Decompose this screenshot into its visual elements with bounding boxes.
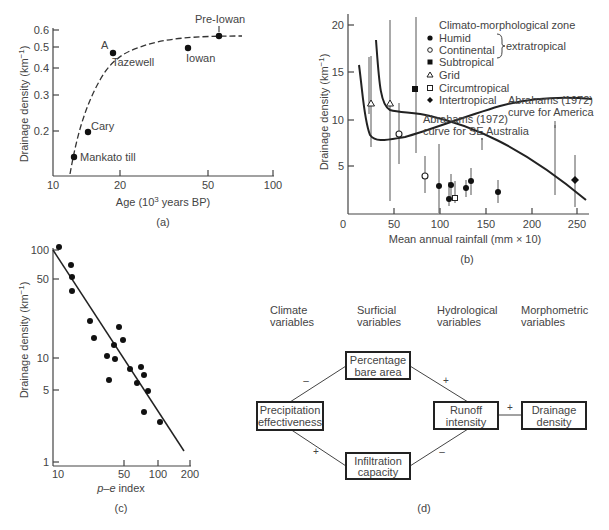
legend-item: Continental (439, 44, 495, 56)
grid-points (368, 100, 394, 106)
y-tick-label: 0.5 (34, 41, 49, 53)
y-axis-label: Drainage density (km−1) (17, 282, 30, 399)
y-axis-label: Drainage density (km−1) (317, 54, 330, 171)
legend-group-label: extratropical (506, 40, 566, 52)
legend-item: Intertropical (439, 94, 496, 106)
edge-sign: + (313, 446, 319, 457)
caption-d: (d) (417, 502, 430, 514)
x-tick-label: 100 (264, 179, 282, 191)
edge-sign: + (443, 375, 449, 386)
svg-text:effectiveness: effectiveness (258, 416, 323, 428)
regression-line (53, 250, 184, 451)
edge-bare-runoff (410, 366, 468, 402)
x-tick-label: 10 (52, 468, 64, 480)
column-header: variables (357, 316, 402, 328)
legend-title: Climato-morphological zone (439, 19, 575, 31)
x-tick-label: 200 (181, 468, 199, 480)
x-axis-label: p–e index (96, 482, 145, 494)
node-infiltration-capacity: Infiltration capacity (346, 453, 410, 479)
brace (497, 34, 505, 58)
column-header: variables (270, 316, 315, 328)
svg-text:bare area: bare area (354, 366, 402, 378)
curve-label-america: Abrahams (1972) (508, 94, 593, 106)
svg-text:intensity: intensity (446, 416, 487, 428)
column-header: Climate (270, 304, 307, 316)
y-tick-label: 0.3 (34, 89, 49, 101)
svg-text:Drainage: Drainage (532, 404, 577, 416)
y-tick-label: 50 (37, 273, 49, 285)
column-header: Surficial (357, 304, 396, 316)
curve-label-se-australia: curve for SE Australia (423, 125, 530, 137)
edge-sign: – (303, 375, 309, 386)
point-label: Tazewell (112, 56, 154, 68)
caption-b: (b) (460, 253, 473, 265)
node-drainage-density: Drainage density (522, 402, 586, 429)
svg-text:density: density (537, 416, 572, 428)
node-precipitation-effectiveness: Precipitation effectiveness (257, 402, 323, 430)
svg-text:capacity: capacity (358, 466, 399, 478)
x-tick-label: 100 (431, 218, 449, 230)
point-label: Iowan (186, 52, 215, 64)
x-tick-label: 150 (477, 218, 495, 230)
x-axis-label: Mean annual rainfall (mm × 10) (389, 233, 542, 245)
y-tick-label: 10 (37, 352, 49, 364)
x-axis-label: Age (103 years BP) (116, 195, 210, 208)
y-tick-label: 15 (332, 66, 344, 78)
column-header: Morphometric (521, 304, 589, 316)
y-tick-label: 5 (338, 160, 344, 172)
x-tick-label: 50 (202, 179, 214, 191)
data-point (216, 33, 222, 39)
x-tick-label: 0 (340, 218, 346, 230)
data-point (185, 45, 191, 51)
y-tick-label: 0.4 (34, 62, 49, 74)
data-point (71, 154, 77, 160)
column-header: Hydrological (437, 304, 498, 316)
node-runoff-intensity: Runoff intensity (434, 402, 498, 429)
caption-a: (a) (156, 216, 169, 228)
svg-text:Percentage: Percentage (350, 354, 406, 366)
column-header: variables (437, 316, 482, 328)
legend: Climato-morphological zone Humid Contine… (427, 19, 575, 106)
edge-precip-bare (290, 366, 346, 402)
y-tick-label: 20 (332, 19, 344, 31)
panel-d-diagram: Climate variables Surficial variables Hy… (257, 304, 589, 514)
y-tick-label: 1 (43, 456, 49, 468)
annotation-A: A (101, 39, 109, 51)
caption-c: (c) (115, 502, 128, 514)
y-tick-label: 0.2 (34, 125, 49, 137)
panel-c-chart: 100 50 10 5 1 10 50 100 200 p–e index Dr… (17, 244, 199, 514)
circumtropical-point (453, 196, 458, 201)
x-tick-label: 50 (388, 218, 400, 230)
data-points (56, 244, 163, 425)
intertropical-point (571, 176, 579, 184)
y-tick-label: 0.6 (34, 24, 49, 36)
svg-text:Precipitation: Precipitation (260, 404, 321, 416)
panel-b-chart: 20 15 10 5 0 50 100 150 200 250 Mean ann… (317, 14, 594, 265)
node-percentage-bare-area: Percentage bare area (346, 352, 410, 379)
x-tick-label: 250 (568, 218, 586, 230)
x-tick-label: 20 (114, 179, 126, 191)
legend-item: Subtropical (439, 56, 494, 68)
point-label: Pre-Iowan (195, 13, 245, 25)
y-tick-label: 100 (31, 244, 49, 256)
curve-label-se-australia: Abrahams (1972) (423, 113, 508, 125)
x-tick-label: 10 (47, 179, 59, 191)
point-label: Cary (91, 120, 115, 132)
legend-item: Humid (439, 32, 471, 44)
point-label: Mankato till (80, 151, 136, 163)
edge-sign: – (439, 446, 445, 457)
legend-item: Circumtropical (439, 82, 509, 94)
edge-sign: + (507, 402, 513, 413)
x-tick-label: 50 (118, 468, 130, 480)
subtropical-point (412, 86, 418, 92)
panel-a-chart: 0.6 0.5 0.4 0.3 0.2 10 20 50 100 Age (10… (17, 13, 282, 228)
continental-point (422, 173, 428, 179)
legend-item: Grid (439, 69, 460, 81)
humid-points (436, 178, 501, 202)
continental-point (396, 131, 402, 137)
x-tick-label: 100 (149, 468, 167, 480)
y-tick-label: 5 (43, 384, 49, 396)
y-tick-label: 10 (332, 114, 344, 126)
y-axis-label: Drainage density (km−1) (17, 46, 30, 163)
svg-text:Runoff: Runoff (450, 404, 483, 416)
